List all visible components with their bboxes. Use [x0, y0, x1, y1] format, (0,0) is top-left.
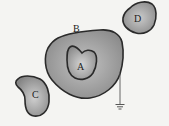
ground-icon [116, 105, 125, 110]
label-d: D [134, 13, 141, 24]
label-b: B [73, 23, 80, 34]
label-c: C [32, 89, 39, 100]
label-a: A [77, 61, 85, 72]
conductor-diagram: B A C D [0, 0, 169, 126]
